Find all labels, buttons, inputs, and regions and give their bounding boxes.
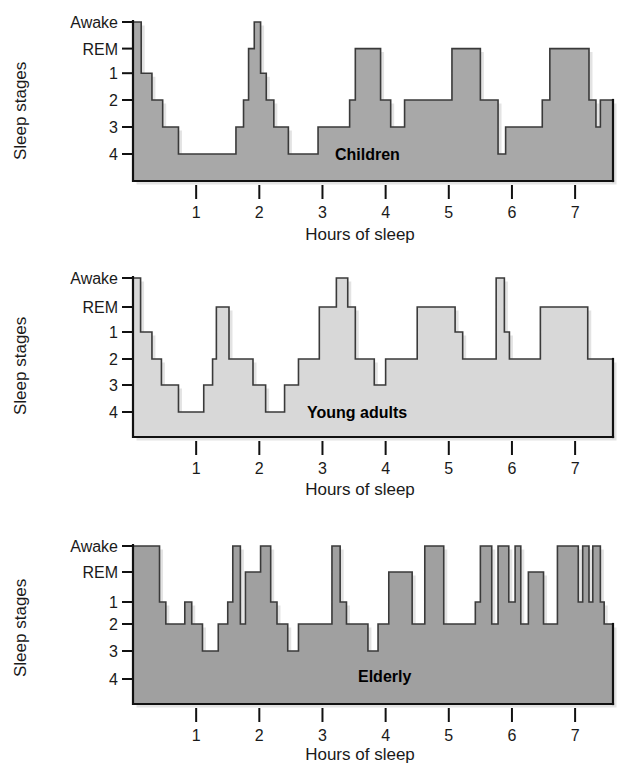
y-tick-marks-young-adults [122, 278, 133, 412]
y-axis-title: Sleep stages [11, 317, 30, 415]
x-tick-label: 7 [571, 460, 580, 477]
x-tick-label: 7 [571, 204, 580, 221]
sleep-stages-figure: Sleep stages AwakeREM1234 1234567 Childr… [0, 0, 626, 767]
x-tick-label: 2 [255, 460, 264, 477]
panel-label-children: Children [335, 146, 400, 163]
y-tick-label: REM [82, 299, 118, 316]
y-tick-label: Awake [70, 538, 118, 555]
x-tick-label: 4 [381, 204, 390, 221]
x-axis-title-young-adults: Hours of sleep [305, 480, 415, 499]
panel-label-elderly: Elderly [358, 668, 411, 685]
y-tick-label: 2 [109, 351, 118, 368]
x-tick-labels-children: 1234567 [192, 204, 580, 221]
y-tick-label: 3 [109, 119, 118, 136]
x-tick-labels-elderly: 1234567 [192, 727, 580, 744]
panel-children: Sleep stages AwakeREM1234 1234567 Childr… [0, 0, 626, 250]
x-axis-title-elderly: Hours of sleep [305, 745, 415, 764]
y-tick-marks-children [122, 22, 133, 154]
y-tick-label: 1 [109, 65, 118, 82]
y-tick-labels-elderly: AwakeREM1234 [70, 538, 118, 688]
x-tick-label: 5 [444, 460, 453, 477]
panel-label-young-adults: Young adults [307, 404, 407, 421]
x-tick-label: 1 [192, 460, 201, 477]
x-tick-label: 4 [381, 460, 390, 477]
y-tick-label: 4 [109, 146, 118, 163]
y-tick-labels-young-adults: AwakeREM1234 [70, 270, 118, 421]
x-tick-label: 6 [507, 727, 516, 744]
y-tick-label: 2 [109, 92, 118, 109]
y-tick-label: REM [82, 564, 118, 581]
panel-elderly-chart: Sleep stages AwakeREM1234 1234567 Elderl… [0, 517, 626, 767]
y-axis-title: Sleep stages [11, 579, 30, 677]
y-tick-label: Awake [70, 14, 118, 31]
x-tick-label: 5 [444, 204, 453, 221]
panel-elderly: Sleep stages AwakeREM1234 1234567 Elderl… [0, 517, 626, 767]
x-tick-label: 2 [255, 204, 264, 221]
y-tick-label: 4 [109, 671, 118, 688]
y-axis-title: Sleep stages [11, 62, 30, 160]
y-tick-label: 1 [109, 324, 118, 341]
y-tick-labels-children: AwakeREM1234 [70, 14, 118, 163]
x-tick-label: 7 [571, 727, 580, 744]
y-tick-label: 3 [109, 377, 118, 394]
y-tick-label: Awake [70, 270, 118, 287]
y-tick-marks-elderly [122, 546, 133, 679]
x-tick-label: 3 [318, 204, 327, 221]
x-tick-label: 3 [318, 460, 327, 477]
y-tick-label: 4 [109, 404, 118, 421]
panel-young-adults: Sleep stages AwakeREM1234 1234567 Young … [0, 255, 626, 505]
x-tick-label: 4 [381, 727, 390, 744]
x-tick-label: 6 [507, 204, 516, 221]
panel-young-adults-chart: Sleep stages AwakeREM1234 1234567 Young … [0, 255, 626, 505]
x-tick-label: 2 [255, 727, 264, 744]
x-tick-label: 5 [444, 727, 453, 744]
x-tick-label: 1 [192, 727, 201, 744]
y-tick-label: REM [82, 41, 118, 58]
y-tick-label: 3 [109, 643, 118, 660]
y-axis-title-group: Sleep stages [11, 579, 30, 677]
y-tick-label: 1 [109, 594, 118, 611]
x-tick-label: 1 [192, 204, 201, 221]
x-axis-title-children: Hours of sleep [305, 225, 415, 244]
panel-children-chart: Sleep stages AwakeREM1234 1234567 Childr… [0, 0, 626, 250]
y-axis-title-group: Sleep stages [11, 62, 30, 160]
y-tick-label: 2 [109, 616, 118, 633]
y-axis-title-group: Sleep stages [11, 317, 30, 415]
x-tick-label: 6 [507, 460, 516, 477]
x-tick-labels-young-adults: 1234567 [192, 460, 580, 477]
x-tick-label: 3 [318, 727, 327, 744]
